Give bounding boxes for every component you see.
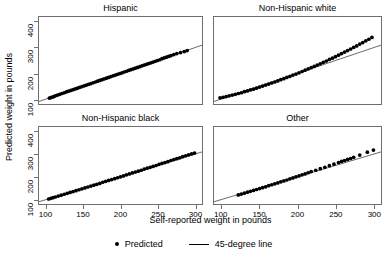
x-tick-mark xyxy=(83,205,84,209)
y-tick-label: 200 xyxy=(26,176,35,198)
legend-item-45-degree-line: 45-degree line xyxy=(189,239,273,249)
legend-item-predicted: Predicted xyxy=(115,239,163,249)
x-tick-label: 250 xyxy=(323,210,349,219)
y-tick-label: 400 xyxy=(26,129,35,151)
y-tick-label: 400 xyxy=(26,20,35,42)
legend-label-45-degree-line: 45-degree line xyxy=(215,239,273,249)
x-tick-label: 100 xyxy=(33,210,59,219)
panel-title: Non-Hispanic white xyxy=(213,3,382,13)
plot-area xyxy=(38,126,203,205)
plot-area xyxy=(213,126,382,205)
y-tick-label: 300 xyxy=(26,46,35,68)
plot-area xyxy=(38,16,203,105)
y-tick-label: 300 xyxy=(26,152,35,174)
y-tick-label: 200 xyxy=(26,72,35,94)
panel-title: Non-Hispanic black xyxy=(38,113,203,123)
x-tick-mark xyxy=(158,205,159,209)
reference-line-icon xyxy=(189,244,209,245)
panel-non-hispanic-black: Non-Hispanic black1002003004001001502002… xyxy=(38,126,203,205)
y-tick-mark xyxy=(34,154,38,155)
x-tick-label: 200 xyxy=(285,210,311,219)
x-tick-mark xyxy=(46,205,47,209)
panel-non-hispanic-white: Non-Hispanic white xyxy=(213,16,382,105)
predicted-points xyxy=(218,36,374,100)
x-tick-mark xyxy=(374,205,375,209)
predicted-points xyxy=(47,151,197,201)
x-tick-label: 150 xyxy=(246,210,272,219)
legend: Predicted 45-degree line xyxy=(0,236,387,252)
y-tick-mark xyxy=(34,74,38,75)
predicted-points xyxy=(47,49,189,100)
panel-title: Other xyxy=(213,113,382,123)
y-tick-mark xyxy=(34,100,38,101)
x-tick-mark xyxy=(121,205,122,209)
panel-title: Hispanic xyxy=(38,3,203,13)
plot-area xyxy=(213,16,382,105)
x-tick-mark xyxy=(221,205,222,209)
y-tick-mark xyxy=(34,200,38,201)
legend-label-predicted: Predicted xyxy=(125,239,163,249)
y-axis-label: Predicted weight in pounds xyxy=(2,2,16,212)
x-tick-label: 250 xyxy=(145,210,171,219)
predicted-points xyxy=(236,148,375,197)
x-tick-label: 200 xyxy=(108,210,134,219)
panel-hispanic: Hispanic100200300400 xyxy=(38,16,203,105)
x-tick-mark xyxy=(336,205,337,209)
x-tick-label: 300 xyxy=(361,210,387,219)
y-tick-label: 100 xyxy=(26,98,35,120)
x-tick-label: 150 xyxy=(70,210,96,219)
y-tick-mark xyxy=(34,21,38,22)
y-tick-mark xyxy=(34,131,38,132)
predicted-dot-icon xyxy=(115,242,119,246)
y-tick-mark xyxy=(34,177,38,178)
figure-panel-grid: Predicted weight in pounds Self-reported… xyxy=(0,0,387,257)
x-tick-mark xyxy=(259,205,260,209)
x-tick-label: 100 xyxy=(208,210,234,219)
x-tick-mark xyxy=(298,205,299,209)
x-tick-mark xyxy=(196,205,197,209)
panel-other: Other100150200250300 xyxy=(213,126,382,205)
x-tick-label: 300 xyxy=(183,210,209,219)
y-tick-mark xyxy=(34,47,38,48)
